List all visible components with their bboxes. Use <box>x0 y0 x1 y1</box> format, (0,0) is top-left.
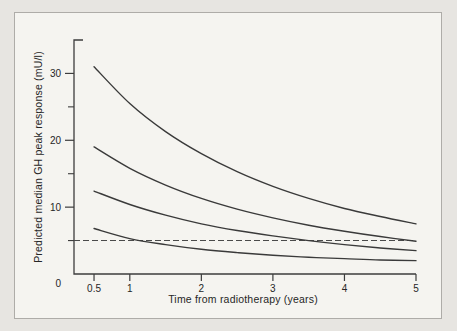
curve-2 <box>94 147 416 241</box>
y-tick-label: 10 <box>50 202 62 213</box>
x-tick-label: 5 <box>413 283 419 294</box>
figure-frame: 10203000.512345 Predicted median GH peak… <box>14 12 442 319</box>
chart-canvas: 10203000.512345 <box>15 13 441 318</box>
y-axis-title: Predicted median GH peak response (mU/l) <box>32 17 46 297</box>
curve-1 <box>94 67 416 224</box>
origin-label: 0 <box>55 278 61 289</box>
axes <box>74 40 416 274</box>
y-tick-label: 20 <box>50 135 62 146</box>
x-axis-title: Time from radiotherapy (years) <box>72 293 414 307</box>
page-background: 10203000.512345 Predicted median GH peak… <box>0 0 457 331</box>
y-tick-label: 30 <box>50 68 62 79</box>
